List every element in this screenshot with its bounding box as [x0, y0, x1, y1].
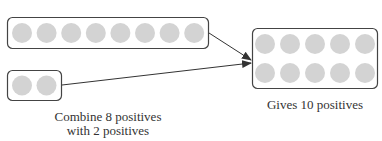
- positive-counter: [61, 23, 81, 43]
- combine-label-line1: Combine 8 positives: [8, 110, 208, 124]
- result-label: Gives 10 positives: [252, 98, 378, 112]
- positive-counter: [280, 63, 300, 83]
- positive-counter: [330, 63, 350, 83]
- positive-counter: [135, 23, 155, 43]
- positive-counter: [355, 34, 375, 54]
- positive-counter: [12, 76, 32, 96]
- positive-counter: [280, 34, 300, 54]
- positive-counter: [110, 23, 130, 43]
- result-10-box: [253, 29, 378, 89]
- positive-counter: [86, 23, 106, 43]
- combine-label-line2: with 2 positives: [8, 124, 208, 138]
- positive-counter: [355, 63, 375, 83]
- positive-counter: [184, 23, 204, 43]
- group-2-box: [8, 71, 62, 101]
- positive-counter: [160, 23, 180, 43]
- positive-counter: [12, 23, 32, 43]
- group-8-box: [8, 18, 209, 49]
- arrow-from-group-8: [209, 33, 251, 60]
- positive-counter: [37, 76, 57, 96]
- combine-label: Combine 8 positives with 2 positives: [8, 110, 208, 138]
- positive-counter: [305, 63, 325, 83]
- positive-counter: [255, 63, 275, 83]
- positive-counter: [330, 34, 350, 54]
- positive-counter: [255, 34, 275, 54]
- arrow-from-group-2: [62, 63, 251, 85]
- positive-counter: [37, 23, 57, 43]
- positive-counter: [305, 34, 325, 54]
